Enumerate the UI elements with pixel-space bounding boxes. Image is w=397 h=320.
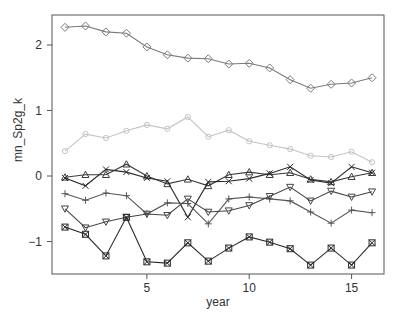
plus-marker bbox=[82, 197, 89, 204]
x-axis-label: year bbox=[206, 295, 229, 309]
plus-marker bbox=[348, 207, 355, 214]
square-x-marker bbox=[103, 253, 109, 259]
plus-marker bbox=[287, 197, 294, 204]
plus-marker bbox=[62, 190, 69, 197]
circle-marker bbox=[62, 149, 67, 154]
series-circle bbox=[62, 114, 374, 164]
x-tick-label: 10 bbox=[243, 281, 257, 295]
series-triangle-down bbox=[62, 184, 376, 231]
x-marker bbox=[82, 183, 88, 189]
y-axis-label: mn_Sp2g_k bbox=[11, 97, 25, 162]
plus-marker bbox=[102, 190, 109, 197]
x-tick-label: 15 bbox=[345, 281, 359, 295]
plot-frame bbox=[52, 15, 384, 274]
x-marker bbox=[185, 214, 191, 220]
line-chart: 51015 −1012 year mn_Sp2g_k bbox=[0, 0, 397, 320]
square-x-marker bbox=[205, 258, 211, 264]
series-diamond bbox=[61, 22, 376, 92]
plus-marker bbox=[307, 209, 314, 216]
series-boxed-x bbox=[62, 214, 375, 268]
x-axis: 51015 bbox=[144, 274, 359, 295]
plus-marker bbox=[328, 220, 335, 227]
square-x-marker bbox=[226, 245, 232, 251]
square-x-marker bbox=[287, 246, 293, 252]
plus-marker bbox=[369, 209, 376, 216]
square-x-marker bbox=[308, 262, 314, 268]
y-axis: −1012 bbox=[28, 38, 52, 249]
y-tick-label: 1 bbox=[35, 104, 42, 118]
series-triangle bbox=[62, 161, 376, 189]
plus-marker bbox=[164, 199, 171, 206]
square-x-marker bbox=[349, 262, 355, 268]
y-tick-label: 2 bbox=[35, 38, 42, 52]
diamond-marker bbox=[368, 74, 376, 82]
plus-marker bbox=[246, 193, 253, 200]
square-x-marker bbox=[369, 240, 375, 246]
circle-marker bbox=[369, 160, 374, 165]
x-tick-label: 5 bbox=[144, 281, 151, 295]
series-layer bbox=[61, 22, 376, 268]
square-x-marker bbox=[328, 245, 334, 251]
y-tick-label: −1 bbox=[28, 235, 42, 249]
y-tick-label: 0 bbox=[35, 169, 42, 183]
square-x-marker bbox=[185, 240, 191, 246]
square-x-marker bbox=[62, 224, 68, 230]
